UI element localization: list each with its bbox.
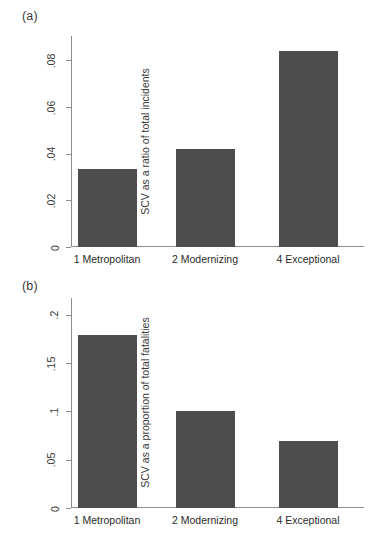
- panel-a-x-label-2: 4 Exceptional: [253, 253, 363, 265]
- panel-b-bar-0: [78, 335, 137, 508]
- panel-b-y-tick-label-1: .05: [46, 453, 57, 468]
- panel-b-x-label-0: 1 Metropolitan: [52, 514, 162, 526]
- panel-b-plot-area: SCV as a proportion of total fatalities …: [71, 298, 363, 508]
- panel-a-x-label-0: 1 Metropolitan: [52, 253, 162, 265]
- panel-b-label: (b): [22, 279, 38, 293]
- panel-a-x-tick-labels: 1 Metropolitan2 Modernizing4 Exceptional: [71, 247, 363, 269]
- panel-a-bar-0: [78, 169, 137, 247]
- panel-a-bar-1: [176, 149, 235, 247]
- panel-b-x-label-2: 4 Exceptional: [253, 514, 363, 526]
- figure-two-panel-bar-charts: (a) SCV as a ratio of total incidents 0.…: [0, 0, 373, 540]
- panel-a: (a) SCV as a ratio of total incidents 0.…: [0, 0, 373, 270]
- panel-b-y-tick-label-4: .2: [49, 311, 60, 320]
- panel-b-x-label-1: 2 Modernizing: [150, 514, 260, 526]
- panel-a-x-label-1: 2 Modernizing: [150, 253, 260, 265]
- panel-b-bars: [71, 298, 363, 508]
- panel-b: (b) SCV as a proportion of total fatalit…: [0, 270, 373, 540]
- panel-a-y-tick-label-0: 0: [51, 245, 62, 251]
- panel-a-y-tick-label-2: .04: [46, 147, 57, 162]
- panel-a-bars: [71, 36, 363, 247]
- panel-a-y-tick-label-1: .02: [46, 194, 57, 209]
- panel-b-y-tick-label-0: 0: [51, 506, 62, 512]
- panel-a-bar-2: [279, 51, 338, 247]
- panel-a-plot-area: SCV as a ratio of total incidents 0.02.0…: [71, 36, 363, 247]
- panel-b-y-tick-label-3: .15: [46, 356, 57, 371]
- panel-a-y-tick-label-4: .08: [46, 54, 57, 69]
- panel-b-bar-1: [176, 411, 235, 508]
- panel-b-x-tick-labels: 1 Metropolitan2 Modernizing4 Exceptional: [71, 508, 363, 530]
- panel-b-bar-2: [279, 441, 338, 508]
- panel-b-y-tick-label-2: .1: [49, 408, 60, 417]
- panel-a-label: (a): [22, 9, 38, 23]
- panel-a-y-tick-label-3: .06: [46, 100, 57, 115]
